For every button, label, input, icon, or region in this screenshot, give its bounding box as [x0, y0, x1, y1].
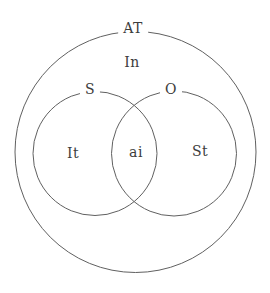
- left-region-label: It: [67, 146, 79, 160]
- outer-region-label: In: [124, 55, 140, 69]
- intersection-region-label: ai: [129, 145, 143, 159]
- left-circle-label: S: [80, 81, 100, 97]
- right-region-label: St: [192, 144, 208, 158]
- euler-diagram: AT In S O It ai St: [0, 0, 270, 293]
- right-circle-label: O: [160, 81, 182, 97]
- outer-circle-label: AT: [118, 20, 148, 36]
